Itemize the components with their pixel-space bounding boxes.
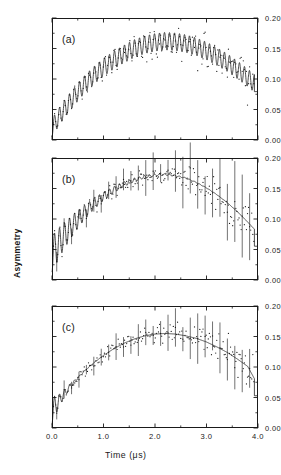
xtick-label-2: 2.0 (149, 432, 161, 441)
figure-root: Asymmetry (a) 0.20 0.15 0.10 0.05 0.00 (… (0, 0, 281, 475)
xtick-label-1: 1.0 (98, 432, 110, 441)
panel-c: (c) 0.20 0.15 0.10 0.05 0.00 0.0 1.0 2.0… (0, 296, 281, 475)
panel-c-canvas (52, 306, 258, 428)
xtick-label-3: 3.0 (201, 432, 213, 441)
xtick-label-0: 0.0 (46, 432, 58, 441)
x-axis-label: Time (μs) (105, 450, 147, 460)
xtick-label-4: 4.0 (252, 432, 264, 441)
panel-a-canvas (52, 18, 258, 140)
panel-b-canvas (52, 158, 258, 280)
panel-b: (b) 0.20 0.15 0.10 0.05 0.00 (0, 148, 281, 298)
panel-a: (a) 0.20 0.15 0.10 0.05 0.00 (0, 0, 281, 150)
